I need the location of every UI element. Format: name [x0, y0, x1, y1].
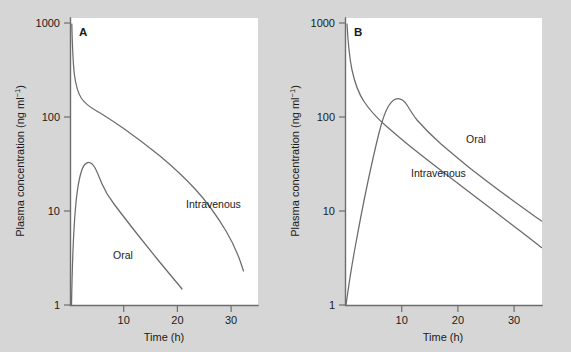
panel-a-label-oral: Oral [113, 249, 133, 261]
panel-a-plot-area [70, 18, 258, 305]
panel-a-label-intravenous: Intravenous [186, 198, 241, 210]
panel-a-x-axis-title: Time (h) [144, 331, 185, 343]
panel-b-xtick-20: 20 [452, 314, 464, 326]
panel-a-y-axis-title: Plasma concentration (ng ml−1) [13, 85, 26, 237]
panel-a-ytick-1: 1 [54, 299, 60, 311]
panel-b-ytick-100: 100 [317, 111, 335, 123]
panel-a-xtick-10: 10 [118, 314, 130, 326]
panel-b-label: B [354, 26, 362, 38]
panel-b-y-axis-title: Plasma concentration (ng ml−1) [288, 85, 301, 237]
panel-a-ytick-1000: 1000 [36, 17, 60, 29]
panel-b-xtick-10: 10 [396, 314, 408, 326]
panel-b-label-oral: Oral [466, 133, 486, 145]
panel-b-ytick-10: 10 [323, 205, 335, 217]
panel-a-ytick-100: 100 [42, 111, 60, 123]
panel-a-ytick-10: 10 [48, 205, 60, 217]
panel-b-ytick-1: 1 [329, 299, 335, 311]
panel-b-plot-area [345, 18, 542, 305]
panel-b-ytick-1000: 1000 [311, 17, 335, 29]
panel-b-xtick-30: 30 [508, 314, 520, 326]
panel-b-x-axis-title: Time (h) [423, 331, 464, 343]
figure-container: 1000 100 10 1 10 20 30 Time (h) Plasma c… [0, 0, 571, 352]
panel-a-xtick-20: 20 [171, 314, 183, 326]
panel-a-xtick-30: 30 [225, 314, 237, 326]
figure-svg: 1000 100 10 1 10 20 30 Time (h) Plasma c… [0, 0, 571, 352]
panel-a-label: A [79, 26, 87, 38]
panel-b-label-intravenous: Intravenous [411, 167, 466, 179]
